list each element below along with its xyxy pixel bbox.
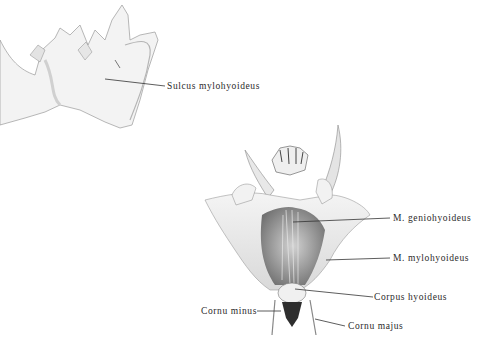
label-m-mylohyoideus: M. mylohyoideus: [393, 253, 469, 263]
label-corpus-hyoideus: Corpus hyoideus: [374, 292, 447, 302]
mandible-inferior-view: [205, 125, 370, 335]
label-cornu-majus: Cornu majus: [348, 321, 403, 331]
label-sulcus-mylohyoideus: Sulcus mylohyoideus: [167, 81, 260, 91]
label-cornu-minus: Cornu minus: [201, 306, 257, 316]
mandible-inner-view: [0, 5, 158, 128]
label-m-geniohyoideus: M. geniohyoideus: [393, 213, 471, 223]
